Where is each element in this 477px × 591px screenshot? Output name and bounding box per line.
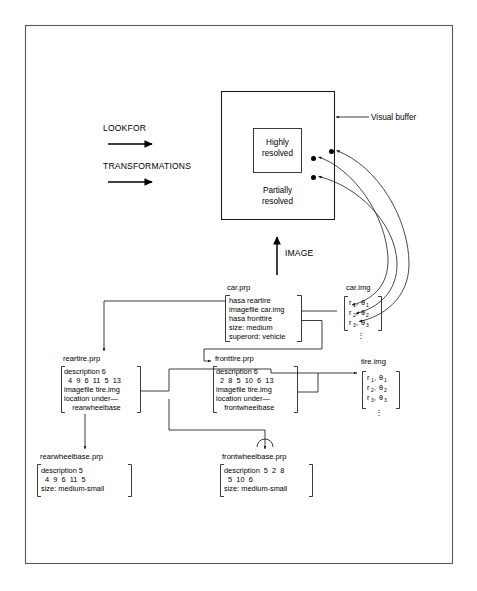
car-img-continuation: ⋮ <box>357 331 365 340</box>
fronttire-prp-title: fronttire.prp <box>215 354 254 363</box>
buffer-to-carimg-curves <box>319 151 410 322</box>
tire-img-theta-2: θ <box>379 393 383 402</box>
box-rearwheelbase-prp: rearwheelbase.prp description 5 4 9 6 11… <box>38 452 132 497</box>
buffer-dot-2 <box>311 156 316 161</box>
frontwheelbase-prp-line-1: 5 10 6 <box>224 475 253 484</box>
correspondence-curve-2 <box>319 177 398 314</box>
car-prp-bracket-right <box>297 296 302 342</box>
buffer-dot-3 <box>311 175 316 180</box>
fronttire-prp-line-1: 2 8 5 10 6 13 <box>216 376 274 385</box>
car-img-theta-0: θ <box>361 298 365 307</box>
connector-car-to-reartire <box>104 301 226 351</box>
car-img-r-2: r <box>349 318 352 327</box>
buffer-anchor-dots <box>311 149 334 180</box>
transformations-process: TRANSFORMATIONS <box>103 161 191 182</box>
car-prp-line-0: hasa reartire <box>229 296 271 305</box>
highly-resolved-label-line2: resolved <box>262 149 293 158</box>
box-reartire-prp: reartire.prp description 6 4 9 6 11 5 13… <box>62 354 141 413</box>
car-prp-line-4: superord: vehicle <box>229 332 285 341</box>
reartire-prp-line-1: 4 9 6 11 5 13 <box>64 376 121 385</box>
frontwheelbase-prp-title: frontwheelbase.prp <box>222 452 287 461</box>
box-tire-img: tire.img r 1 , θ 1 r 2 , θ 2 r 3 , θ <box>361 357 400 417</box>
tire-img-bracket-right <box>396 372 400 409</box>
connector-fronttire-to-tireimg <box>298 373 319 392</box>
tire-img-comma-0: , <box>374 373 376 382</box>
car-img-comma-0: , <box>356 298 358 307</box>
frontwheelbase-prp-line-2: size: medium-small <box>224 484 288 493</box>
partially-resolved-label-line1: Partially <box>263 186 293 195</box>
partially-resolved-label-line2: resolved <box>262 197 293 206</box>
fronttire-prp-line-3: location under— <box>216 394 270 403</box>
car-img-comma-1: , <box>356 308 358 317</box>
tire-img-comma-2: , <box>374 393 376 402</box>
visual-buffer-callout-label: Visual buffer <box>371 113 416 122</box>
rearwheelbase-prp-line-1: 4 9 6 11 5 <box>41 475 86 484</box>
highly-resolved-label-line1: Highly <box>266 138 290 147</box>
tire-img-bracket-left <box>363 372 367 409</box>
reartire-prp-line-3: location under— <box>64 394 118 403</box>
tire-img-row-1: r 2 , θ 2 <box>367 383 387 393</box>
fronttire-prp-line-0: description 6 <box>216 367 258 376</box>
tire-img-theta-0: θ <box>379 373 383 382</box>
reartire-prp-line-0: description 6 <box>64 367 106 376</box>
buffer-dot-1 <box>329 149 334 154</box>
lookfor-label: LOOKFOR <box>103 123 146 133</box>
transformations-label: TRANSFORMATIONS <box>103 161 191 171</box>
car-prp-line-2: hasa fronttire <box>229 314 272 323</box>
box-frontwheelbase-prp: frontwheelbase.prp description 5 2 8 5 1… <box>221 452 313 497</box>
tire-img-theta-sub-0: 1 <box>384 377 387 383</box>
car-img-r-1: r <box>349 308 352 317</box>
tire-img-r-2: r <box>367 393 370 402</box>
tire-img-comma-1: , <box>374 383 376 392</box>
frontwheelbase-prp-bracket-right <box>309 465 313 497</box>
tire-img-row-2: r 3 , θ 3 <box>367 393 387 403</box>
tire-img-continuation: ⋮ <box>375 408 383 417</box>
car-img-comma-2: , <box>356 318 358 327</box>
box-fronttire-prp: fronttire.prp description 6 2 8 5 10 6 1… <box>214 354 298 413</box>
rearwheelbase-prp-line-2: size: medium-small <box>41 484 105 493</box>
car-img-bracket-left <box>345 297 349 331</box>
car-prp-line-3: size: medium <box>229 323 273 332</box>
reartire-prp-line-2: imagefile tire.img <box>64 385 120 394</box>
car-img-theta-1: θ <box>361 308 365 317</box>
figure-root: LOOKFOR TRANSFORMATIONS Highly resolved … <box>0 0 477 591</box>
correspondence-curve-3 <box>337 151 410 322</box>
tire-img-theta-sub-1: 2 <box>384 387 387 393</box>
fronttire-prp-line-2: imagefile tire.img <box>216 385 272 394</box>
car-prp-line-1: imagefile car.img <box>229 305 284 314</box>
car-prp-title: car.prp <box>227 283 250 292</box>
lookfor-process: LOOKFOR <box>103 123 152 144</box>
car-img-theta-sub-0: 1 <box>366 302 369 308</box>
reartire-prp-line-4: rearwheelbase <box>64 403 121 412</box>
fronttire-prp-line-4: frontwheelbase <box>216 403 274 412</box>
tire-img-r-0: r <box>367 373 370 382</box>
box-car-img: car.img r 1 , θ 1 r 2 , θ 2 r 3 , θ <box>345 283 382 340</box>
image-label: IMAGE <box>285 248 314 258</box>
car-img-r-0: r <box>349 298 352 307</box>
tire-img-row-0: r 1 , θ 1 <box>367 373 387 383</box>
car-img-theta-sub-1: 2 <box>366 312 369 318</box>
visual-buffer: Highly resolved Partially resolved Visua… <box>222 92 417 220</box>
rearwheelbase-prp-line-0: description 5 <box>41 466 83 475</box>
rearwheelbase-prp-title: rearwheelbase.prp <box>40 452 103 461</box>
car-img-theta-2: θ <box>361 318 365 327</box>
image-process: IMAGE <box>277 237 314 275</box>
tire-img-theta-1: θ <box>379 383 383 392</box>
tire-img-theta-sub-2: 3 <box>384 397 387 403</box>
rearwheelbase-prp-bracket-right <box>128 465 132 497</box>
reartire-prp-bracket-right <box>137 367 141 413</box>
reartire-prp-title: reartire.prp <box>63 354 100 363</box>
box-car-prp: car.prp hasa reartire imagefile car.img … <box>226 283 302 342</box>
schema-diagram: LOOKFOR TRANSFORMATIONS Highly resolved … <box>0 0 477 591</box>
car-img-theta-sub-2: 3 <box>366 322 369 328</box>
car-img-title: car.img <box>346 283 370 292</box>
tire-img-title: tire.img <box>361 357 386 366</box>
frontwheelbase-prp-line-0: description 5 2 8 <box>224 466 284 475</box>
tire-img-r-1: r <box>367 383 370 392</box>
